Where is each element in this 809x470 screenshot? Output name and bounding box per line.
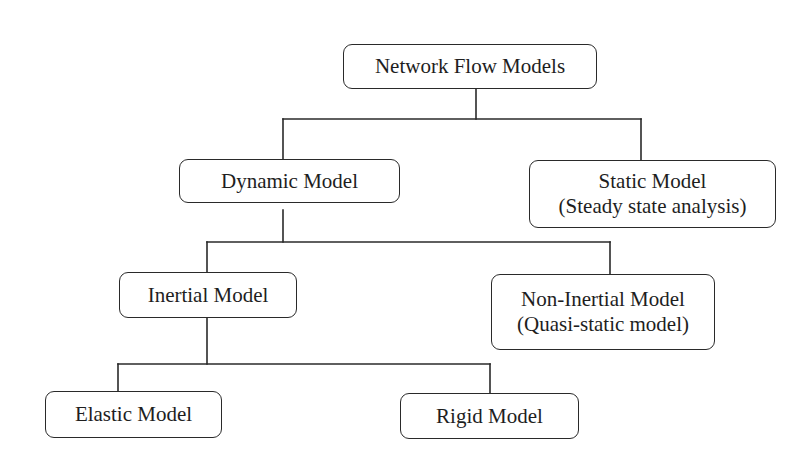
node-label: Rigid Model (436, 404, 543, 429)
node-sublabel: (Steady state analysis) (559, 194, 747, 219)
node-label: Non-Inertial Model (521, 287, 685, 312)
node-label: Elastic Model (75, 402, 192, 427)
node-dynamic-model: Dynamic Model (179, 159, 400, 203)
diagram-canvas: Network Flow Models Dynamic Model Static… (0, 0, 809, 470)
node-inertial-model: Inertial Model (119, 272, 297, 318)
node-elastic-model: Elastic Model (45, 391, 222, 438)
node-label: Inertial Model (148, 283, 269, 308)
node-label: Network Flow Models (375, 54, 565, 79)
node-non-inertial-model: Non-Inertial Model (Quasi-static model) (491, 274, 715, 350)
node-label: Static Model (599, 169, 707, 194)
node-network-flow-models: Network Flow Models (343, 44, 597, 89)
node-static-model: Static Model (Steady state analysis) (529, 160, 776, 228)
node-label: Dynamic Model (221, 169, 358, 194)
node-sublabel: (Quasi-static model) (517, 312, 689, 337)
node-rigid-model: Rigid Model (400, 393, 579, 439)
